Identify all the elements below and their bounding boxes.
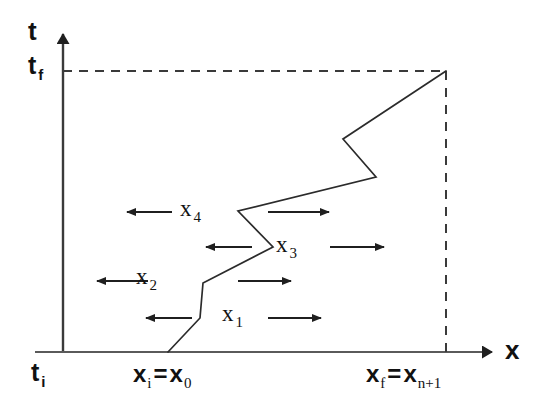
initial-position-label: xi=x0 (133, 362, 191, 391)
t-axis-label: t (28, 18, 37, 44)
segment-label-x1: x1 (222, 302, 243, 330)
segment-label-x3: x3 (276, 233, 297, 261)
t-final-tick-label: tf (28, 53, 43, 82)
diagram-canvas (0, 0, 549, 418)
x-axis-label: x (505, 337, 519, 363)
segment-label-x2: x2 (136, 265, 157, 293)
final-position-label: xf=xn+1 (366, 362, 441, 391)
physics-path-diagram: t tf ti x x1 x2 x3 x4 xi=x0 xf=xn+1 (0, 0, 549, 418)
segment-label-x4: x4 (180, 197, 201, 225)
t-initial-tick-label: ti (31, 360, 46, 389)
